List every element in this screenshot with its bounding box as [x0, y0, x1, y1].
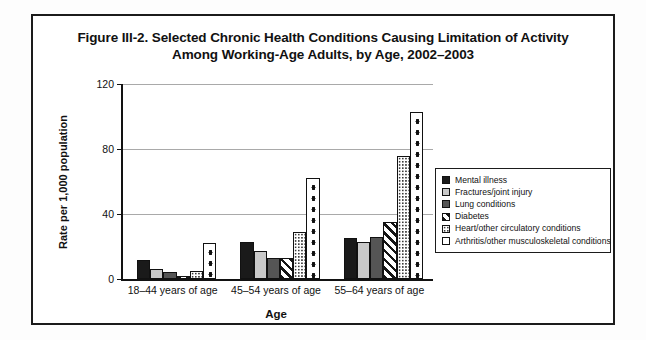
legend-item-1: Fractures/joint injury: [442, 186, 605, 198]
bar-0-4: [190, 271, 203, 279]
x-group-label-1: 45–54 years of age: [231, 284, 321, 296]
legend-item-5: Arthritis/other musculoskeletal conditio…: [442, 235, 605, 247]
bar-2-3: [383, 222, 396, 279]
bar-0-3: [177, 276, 190, 279]
bar-1-1: [254, 251, 267, 279]
gridline-120: [123, 84, 433, 85]
legend-item-3: Diabetes: [442, 211, 605, 223]
y-tick-40: [117, 214, 123, 215]
chart-axes: 04080120: [121, 84, 433, 281]
bar-0-2: [163, 272, 176, 279]
legend-swatch-icon-5: [442, 237, 450, 245]
bar-1-5: [306, 178, 319, 279]
bar-1-4: [293, 232, 306, 279]
bar-1-3: [280, 258, 293, 279]
legend-item-2: Lung conditions: [442, 198, 605, 210]
legend-swatch-icon-1: [442, 188, 450, 196]
legend-swatch-icon-2: [442, 200, 450, 208]
figure-frame: Figure III-2. Selected Chronic Health Co…: [31, 14, 615, 325]
chart-legend: Mental illnessFractures/joint injuryLung…: [435, 168, 611, 253]
y-tick-label-120: 120: [96, 78, 114, 90]
legend-label-2: Lung conditions: [455, 200, 515, 209]
y-tick-label-0: 0: [108, 273, 114, 285]
y-axis-label-text: Rate per 1,000 population: [57, 115, 69, 249]
y-tick-label-40: 40: [102, 208, 114, 220]
bar-2-2: [370, 237, 383, 279]
bar-1-2: [267, 258, 280, 279]
y-tick-label-80: 80: [102, 143, 114, 155]
bar-2-1: [357, 242, 370, 279]
bar-2-0: [344, 238, 357, 279]
gridline-80: [123, 149, 433, 150]
y-tick-80: [117, 149, 123, 150]
legend-swatch-icon-3: [442, 213, 450, 221]
legend-swatch-icon-0: [442, 176, 450, 184]
y-axis-label: Rate per 1,000 population: [55, 84, 71, 279]
legend-label-1: Fractures/joint injury: [455, 188, 532, 197]
legend-item-4: Heart/other circulatory conditions: [442, 223, 605, 235]
legend-label-4: Heart/other circulatory conditions: [455, 224, 581, 233]
bar-2-5: [410, 112, 423, 279]
legend-swatch-icon-4: [442, 225, 450, 233]
x-group-label-2: 55–64 years of age: [334, 284, 424, 296]
bar-0-1: [150, 269, 163, 279]
y-tick-120: [117, 84, 123, 85]
legend-item-0: Mental illness: [442, 174, 605, 186]
x-group-label-0: 18–44 years of age: [128, 284, 218, 296]
bar-0-5: [203, 243, 216, 279]
y-tick-0: [117, 279, 123, 280]
legend-label-0: Mental illness: [455, 176, 507, 185]
bar-0-0: [137, 260, 150, 280]
x-axis-label: Age: [121, 308, 431, 320]
bar-1-0: [240, 242, 253, 279]
legend-label-3: Diabetes: [455, 212, 489, 221]
legend-label-5: Arthritis/other musculoskeletal conditio…: [455, 237, 611, 246]
gridline-40: [123, 214, 433, 215]
bar-2-4: [397, 156, 410, 280]
